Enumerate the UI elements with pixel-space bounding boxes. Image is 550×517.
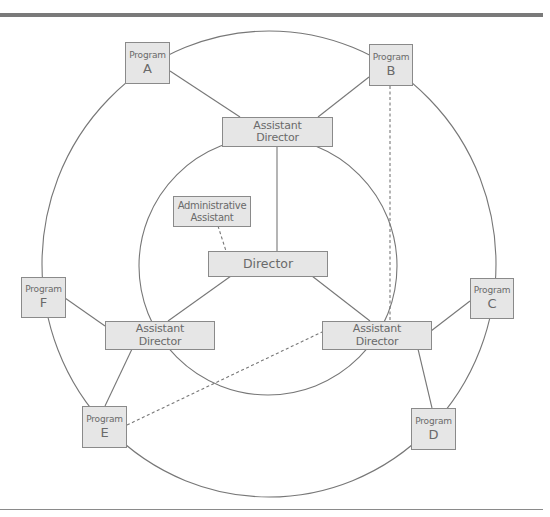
edge-ad-left-program-e (105, 349, 132, 406)
program-d-label: Program (415, 416, 452, 427)
edge-ad-top-program-b (318, 77, 369, 117)
edge-director-ad-right (312, 276, 370, 321)
edge-director-ad-left (168, 276, 231, 321)
program-f-box: Program F (21, 277, 66, 318)
administrative-assistant-box: Administrative Assistant (173, 196, 251, 227)
program-e-letter: E (100, 425, 108, 441)
program-d-box: Program D (411, 408, 456, 450)
program-d-letter: D (428, 427, 438, 443)
assistant-director-right-box: Assistant Director (322, 321, 432, 350)
program-b-box: Program B (369, 44, 413, 86)
assistant-director-left-line2: Director (139, 336, 182, 349)
assistant-director-right-line1: Assistant (353, 323, 401, 336)
program-c-letter: C (487, 296, 496, 312)
director-box: Director (208, 251, 328, 277)
administrative-assistant-line1: Administrative (178, 200, 247, 212)
edge-dashed-admin-director (218, 226, 226, 251)
bottom-rule (0, 509, 543, 510)
director-label: Director (243, 257, 293, 271)
edge-ad-right-program-c (431, 301, 470, 331)
program-c-box: Program C (470, 278, 514, 319)
edge-ad-left-program-f (65, 298, 105, 326)
program-a-letter: A (143, 61, 152, 77)
assistant-director-left-line1: Assistant (136, 323, 184, 336)
edge-ad-right-program-d (418, 349, 432, 408)
assistant-director-top-box: Assistant Director (222, 117, 333, 147)
program-e-box: Program E (82, 406, 127, 448)
program-f-label: Program (25, 284, 62, 295)
assistant-director-top-line2: Director (256, 132, 299, 145)
program-e-label: Program (86, 414, 123, 425)
edge-ad-top-program-a (170, 71, 240, 117)
program-b-letter: B (387, 63, 396, 79)
program-f-letter: F (40, 295, 47, 311)
assistant-director-right-line2: Director (356, 336, 399, 349)
administrative-assistant-line2: Assistant (191, 212, 234, 224)
program-a-box: Program A (125, 42, 170, 84)
assistant-director-left-box: Assistant Director (105, 321, 215, 350)
program-a-label: Program (129, 50, 166, 61)
program-c-label: Program (474, 285, 511, 296)
program-b-label: Program (373, 52, 410, 63)
